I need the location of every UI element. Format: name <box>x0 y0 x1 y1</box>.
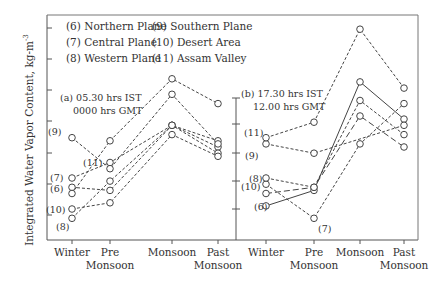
data-point <box>263 190 270 197</box>
series-line <box>72 125 218 218</box>
x-tick-label: Monsoon <box>380 259 429 271</box>
data-point <box>401 144 408 151</box>
series-label: (9) <box>245 150 258 161</box>
data-point <box>107 200 114 207</box>
data-point <box>401 122 408 129</box>
panel-a-subtitle: 0000 hrs GMT <box>73 105 143 116</box>
series-line <box>266 125 404 153</box>
series-label: (10) <box>46 204 66 215</box>
data-point <box>107 178 114 185</box>
x-tick-label: Monsoon <box>290 259 339 271</box>
panel-a-title: (a) 05.30 hrs IST <box>60 92 142 103</box>
data-point <box>69 175 76 182</box>
series-label: (9) <box>48 126 61 137</box>
data-point <box>215 153 222 160</box>
panel-b-title: (b) 17.30 hrs IST <box>241 88 324 99</box>
data-point <box>357 26 364 33</box>
data-point <box>69 134 76 141</box>
data-point <box>169 76 176 83</box>
data-point <box>357 97 364 104</box>
series-line <box>266 101 404 188</box>
series-line <box>72 125 218 178</box>
x-tick-label: Pre <box>101 246 119 258</box>
data-point <box>107 159 114 166</box>
x-tick-label: Winter <box>54 246 91 258</box>
x-tick-label: Past <box>207 246 230 258</box>
data-point <box>169 91 176 98</box>
data-point <box>69 206 76 213</box>
data-point <box>263 181 270 188</box>
series-label: (11) <box>83 157 103 168</box>
data-point <box>69 190 76 197</box>
legend-entry: (9) Southern Plane <box>152 20 252 32</box>
data-point <box>215 141 222 148</box>
data-point <box>401 85 408 92</box>
data-point <box>401 100 408 107</box>
x-tick-label: Monsoon <box>194 259 243 271</box>
series-line <box>266 104 404 219</box>
data-point <box>169 131 176 138</box>
data-point <box>357 141 364 148</box>
data-point <box>69 215 76 222</box>
x-tick-label: Winter <box>248 246 285 258</box>
legend-entry: (10) Desert Area <box>152 36 241 48</box>
data-point <box>263 175 270 182</box>
x-tick-label: Monsoon <box>148 246 197 258</box>
data-point <box>107 165 114 172</box>
data-point <box>311 215 318 222</box>
data-point <box>311 119 318 126</box>
data-point <box>107 187 114 194</box>
data-point <box>357 113 364 120</box>
series-label: (7) <box>50 172 63 183</box>
legend-entry: (8) Western Plane <box>66 52 161 64</box>
data-point <box>215 100 222 107</box>
series-label: (10) <box>241 181 261 192</box>
data-point <box>357 79 364 86</box>
data-point <box>263 134 270 141</box>
data-point <box>311 184 318 191</box>
data-point <box>69 184 76 191</box>
series-label: (7) <box>318 223 331 234</box>
series-label: (6) <box>50 183 63 194</box>
x-tick-label: Monsoon <box>336 246 385 258</box>
y-axis-label: Integrated Water Vapor Content, kg-m-3 <box>22 34 35 246</box>
data-point <box>401 116 408 123</box>
chart-svg: WinterPreMonsoonMonsoonPastMonsoonWinter… <box>0 0 445 287</box>
series-label: (8) <box>56 221 69 232</box>
legend-entry: (7) Central Plane <box>66 36 157 48</box>
x-tick-label: Past <box>393 246 416 258</box>
data-point <box>169 122 176 129</box>
legend-entry: (11) Assam Valley <box>152 52 247 64</box>
x-tick-label: Monsoon <box>86 259 135 271</box>
series-line <box>72 135 218 209</box>
data-point <box>311 150 318 157</box>
data-point <box>263 141 270 148</box>
series-label: (6) <box>254 201 267 212</box>
data-point <box>107 138 114 145</box>
x-tick-label: Pre <box>305 246 323 258</box>
chart: WinterPreMonsoonMonsoonPastMonsoonWinter… <box>0 0 445 287</box>
data-point <box>401 131 408 138</box>
panel-b-subtitle: 12.00 hrs GMT <box>253 101 326 112</box>
series-label: (11) <box>244 127 264 138</box>
series-line <box>266 29 404 138</box>
